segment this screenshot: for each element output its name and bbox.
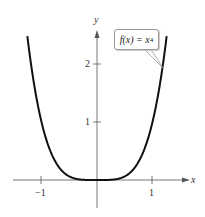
callout-text: f(x) = x [120,34,150,45]
function-plot [0,0,205,217]
y-axis-label: y [94,15,98,25]
x-axis-arrow-icon [182,178,190,183]
callout-pointer [143,48,163,68]
x-tick-label-neg1: −1 [35,188,46,198]
y-tick-label-2: 2 [85,59,90,69]
x-axis-label: x [191,175,195,185]
y-tick-label-1: 1 [85,117,90,127]
function-callout: f(x) = x4 [114,29,159,50]
x-tick-label-1: 1 [149,188,154,198]
callout-exponent: 4 [150,36,154,44]
y-axis-arrow-icon [95,30,100,38]
